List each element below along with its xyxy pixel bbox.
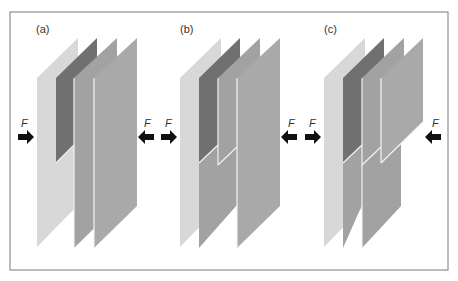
panel-label: (b) xyxy=(180,23,193,35)
panel-label: (a) xyxy=(36,23,49,35)
panel-label: (c) xyxy=(324,23,337,35)
figure: (a)FF(b)FF(c)FF xyxy=(0,0,458,281)
